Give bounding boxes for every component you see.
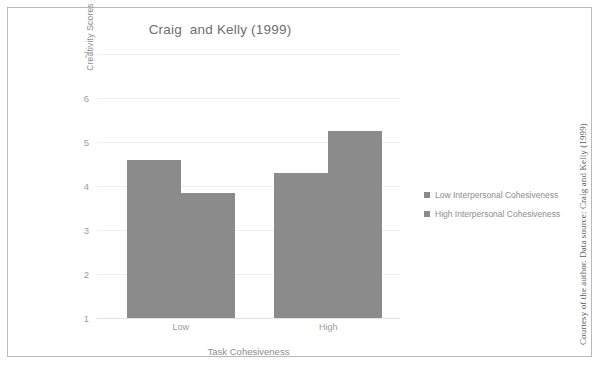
y-tick-label: 5 bbox=[63, 137, 89, 148]
chart-title: Craig and Kelly (1999) bbox=[0, 22, 440, 37]
y-tick-label: 1 bbox=[63, 313, 89, 324]
x-category-label: Low bbox=[172, 322, 189, 332]
x-category-label: High bbox=[319, 322, 338, 332]
credit-caption: Courtesy of the author. Data source: Cra… bbox=[578, 123, 588, 345]
legend-swatch-icon bbox=[424, 211, 430, 217]
legend-item: High Interpersonal Cohesiveness bbox=[424, 209, 574, 219]
y-axis-title: Creativity Scores bbox=[85, 0, 95, 102]
y-tick-label: 4 bbox=[63, 181, 89, 192]
legend-item: Low Interpersonal Cohesiveness bbox=[424, 190, 574, 200]
chart-legend: Low Interpersonal CohesivenessHigh Inter… bbox=[424, 190, 574, 228]
gridline bbox=[97, 318, 400, 319]
legend-swatch-icon bbox=[424, 192, 430, 198]
y-axis: 1234567 Creativity Scores bbox=[97, 54, 400, 318]
legend-label: High Interpersonal Cohesiveness bbox=[435, 209, 560, 219]
chart-figure: Craig and Kelly (1999) LowHigh Task Cohe… bbox=[0, 0, 613, 376]
y-tick-label: 3 bbox=[63, 225, 89, 236]
x-axis-title: Task Cohesiveness bbox=[97, 346, 400, 357]
y-tick-label: 2 bbox=[63, 269, 89, 280]
legend-label: Low Interpersonal Cohesiveness bbox=[435, 190, 558, 200]
